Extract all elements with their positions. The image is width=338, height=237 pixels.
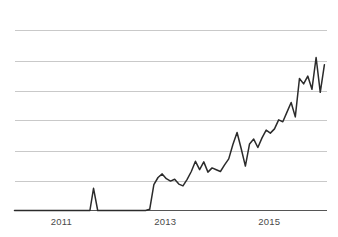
gridlines [15,31,327,182]
x-tick-label-2013: 2013 [154,216,176,227]
data-series [15,58,325,211]
x-axis-tick-labels: 201120132015 [51,216,281,227]
line-chart: 201120132015 [0,0,338,237]
chart-plot-area: 201120132015 [0,0,338,237]
x-tick-label-2015: 2015 [258,216,280,227]
series-line-1 [15,58,325,211]
x-tick-label-2011: 2011 [51,216,72,227]
